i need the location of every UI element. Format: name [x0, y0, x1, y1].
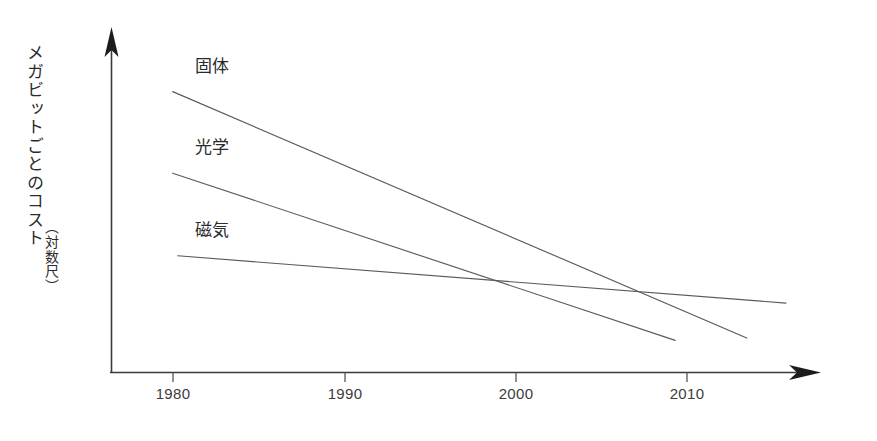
- chart-figure: メガビットごとのコスト （対数尺） 1980 1990 2000 2010 固体…: [0, 0, 877, 441]
- series-label-magnetic: 磁気: [195, 220, 229, 240]
- series-label-optical: 光学: [195, 137, 229, 157]
- x-tick-label-2010: 2010: [670, 385, 705, 402]
- x-tick-label-1980: 1980: [156, 385, 191, 402]
- series-line-magnetic: [178, 256, 786, 303]
- x-tick-label-2000: 2000: [499, 385, 534, 402]
- series-line-solid-state: [173, 92, 747, 338]
- series-line-optical: [173, 173, 676, 340]
- chart-plot-area: 1980 1990 2000 2010 固体 光学 磁気: [0, 0, 877, 441]
- x-tick-label-1990: 1990: [328, 385, 363, 402]
- series-label-solid-state: 固体: [195, 56, 229, 76]
